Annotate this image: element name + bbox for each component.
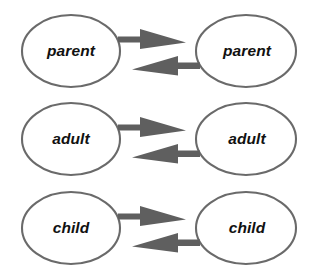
node-parent-right-label: parent — [222, 42, 272, 59]
arrow-adult-forward-icon[interactable] — [118, 117, 186, 137]
row-adult: adult adult — [22, 103, 296, 175]
arrow-adult-backward-icon[interactable] — [132, 144, 200, 164]
node-parent-left-label: parent — [46, 42, 96, 59]
arrow-child-backward-icon[interactable] — [132, 233, 200, 253]
arrow-child-forward-icon[interactable] — [118, 206, 186, 226]
diagram-svg: parent parent adult adult child child — [0, 0, 309, 278]
node-child-left-label: child — [53, 219, 90, 236]
node-adult-left-label: adult — [52, 130, 90, 147]
node-child-right-label: child — [229, 219, 266, 236]
diagram-canvas: parent parent adult adult child child — [0, 0, 309, 278]
row-parent: parent parent — [22, 15, 296, 87]
arrow-parent-backward-icon[interactable] — [132, 56, 200, 76]
arrow-parent-forward-icon[interactable] — [118, 29, 186, 49]
node-adult-right-label: adult — [228, 130, 266, 147]
row-child: child child — [22, 192, 296, 264]
